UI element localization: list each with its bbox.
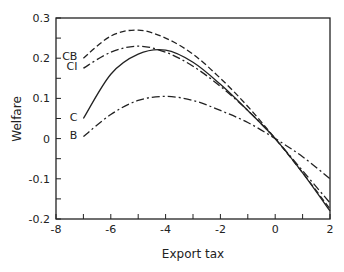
- series-label-ci: CI: [66, 60, 77, 73]
- welfare-chart: CBCICB -8-6-4-202-0.2-0.100.10.20.3 Expo…: [0, 0, 344, 272]
- series-label-c: C: [70, 111, 78, 124]
- plot-frame: [56, 18, 330, 219]
- x-tick-label: 0: [272, 223, 279, 236]
- x-tick-label: -2: [215, 223, 226, 236]
- series-label-b: B: [70, 129, 78, 142]
- series-line-c: [83, 50, 330, 211]
- y-tick-label: -0.1: [29, 173, 50, 186]
- y-tick-label: -0.2: [29, 213, 50, 226]
- x-tick-label: -4: [160, 223, 171, 236]
- x-tick-label: -8: [51, 223, 62, 236]
- series-line-ci: [83, 46, 330, 203]
- y-axis-title: Welfare: [10, 96, 24, 142]
- y-tick-label: 0.2: [33, 52, 51, 65]
- x-tick-label: 2: [327, 223, 334, 236]
- plot-area: CBCICB: [62, 30, 330, 211]
- y-tick-label: 0.3: [33, 12, 51, 25]
- series-line-b: [83, 96, 330, 178]
- y-tick-label: 0: [43, 133, 50, 146]
- series-line-cb: [83, 30, 330, 209]
- x-tick-label: -6: [105, 223, 116, 236]
- x-axis-title: Export tax: [162, 247, 224, 261]
- y-tick-label: 0.1: [33, 92, 51, 105]
